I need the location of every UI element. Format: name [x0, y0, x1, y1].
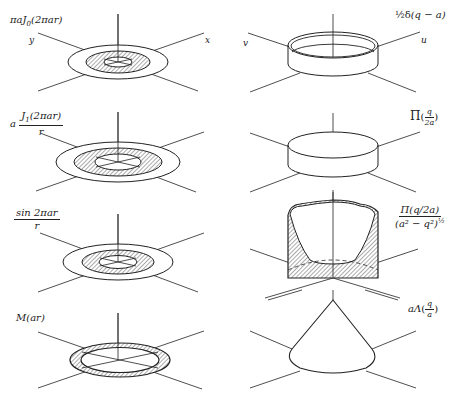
right-panel-1 — [248, 14, 420, 92]
right-panel-2 — [250, 113, 420, 200]
label-left-3: sin 2πar r — [14, 208, 60, 231]
right-panel-4 — [250, 290, 416, 388]
label-right-1: ½δ(q − a) — [395, 10, 446, 20]
u-axis-label: u — [421, 35, 427, 45]
label-left-2: a J1(2πar) r — [10, 111, 63, 137]
left-panel-1 — [38, 14, 204, 91]
x-axis-label: x — [205, 35, 210, 45]
right-panel-3 — [250, 192, 418, 298]
label-right-3: Π(q/2a) (a² − q²)½ — [395, 205, 445, 229]
label-left-4: M(ar) — [16, 313, 45, 323]
y-axis-label: y — [29, 35, 34, 45]
left-panel-3 — [38, 214, 204, 292]
label-right-4: aΛ( q a ) — [408, 300, 438, 319]
fourier-pairs-diagram — [0, 0, 456, 397]
label-right-2: Π( q 2a ) — [410, 108, 438, 127]
label-left-1: πaJ0(2πar) — [10, 15, 63, 28]
v-axis-label: v — [243, 38, 248, 48]
left-panel-4 — [38, 313, 204, 389]
